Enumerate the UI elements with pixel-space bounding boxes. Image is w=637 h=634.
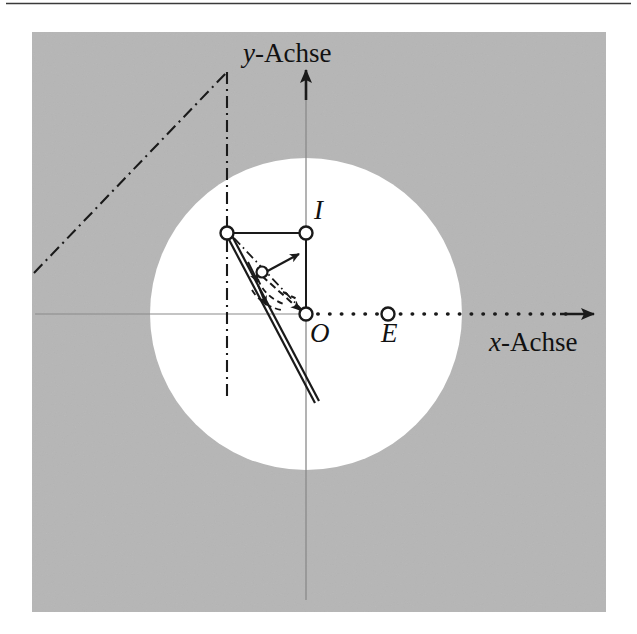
point-label-O: O — [310, 320, 330, 347]
figure-canvas: y-Achse x-Achse O E I — [0, 0, 637, 634]
point-marker-I[interactable] — [300, 227, 313, 240]
x-axis-label-prefix: x — [489, 327, 501, 357]
y-axis-label-prefix: y — [243, 38, 255, 68]
point-label-I: I — [314, 197, 323, 224]
point-label-E: E — [381, 320, 398, 347]
x-axis-label-suffix: -Achse — [501, 327, 577, 357]
y-axis-label-suffix: -Achse — [255, 38, 331, 68]
geometry-figure — [0, 0, 637, 634]
x-axis-label: x-Achse — [489, 329, 577, 356]
y-axis-label: y-Achse — [243, 40, 331, 67]
point-marker-M[interactable] — [257, 267, 268, 278]
point-marker-P[interactable] — [221, 227, 234, 240]
